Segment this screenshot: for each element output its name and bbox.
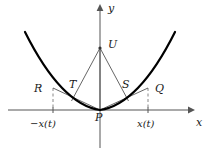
x-axis-arrow-icon [188,107,195,114]
segment-u-to-t [72,48,101,101]
diagram-canvas [0,0,210,152]
point-label-u: U [108,39,117,50]
x-axis-label: x [196,117,202,128]
tick-label-neg-x-of-t: −x(t) [30,119,56,129]
y-axis-arrow-icon [97,4,104,11]
parabola-diagram: y x U R T S Q P −x(t) x(t) [0,0,210,152]
tick-label-pos-x-of-t: x(t) [137,119,154,129]
point-dot-u [98,46,101,49]
point-label-q: Q [155,83,164,94]
point-label-p: P [95,112,102,123]
y-axis-label: y [108,3,114,14]
segment-u-to-s [100,48,129,101]
point-label-r: R [34,83,42,94]
point-label-s: S [122,79,130,90]
point-label-t: T [69,79,76,90]
